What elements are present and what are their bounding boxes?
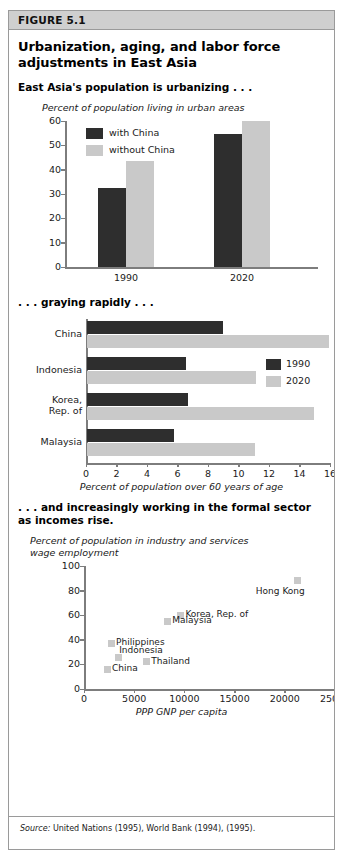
chart3-point-label: Malaysia xyxy=(172,615,211,625)
chart3-x-tickmark xyxy=(335,690,336,693)
chart2-x-tickmark xyxy=(177,464,179,467)
chart2-category-label: Indonesia xyxy=(20,364,82,375)
chart2-x-tick-label: 12 xyxy=(257,468,281,479)
chart1-legend-label: with China xyxy=(109,127,159,138)
chart1-category-label: 2020 xyxy=(212,272,272,283)
chart-aging: 0246810121416ChinaIndonesiaKorea,Rep. of… xyxy=(18,315,325,491)
chart1-y-tickmark xyxy=(61,121,65,123)
chart2-x-tick-label: 10 xyxy=(227,468,251,479)
source-text: United Nations (1995), World Bank (1994)… xyxy=(50,824,255,833)
chart3-data-point xyxy=(143,658,150,665)
chart2-x-tickmark xyxy=(86,464,88,467)
chart3-x-tick-label: 15000 xyxy=(215,693,255,704)
chart3-data-point xyxy=(294,577,301,584)
chart3-y-tick-label: 80 xyxy=(48,585,80,596)
chart3-y-tick-label: 60 xyxy=(48,609,80,620)
chart1-x-axis xyxy=(65,267,318,269)
chart1-bar xyxy=(98,188,126,267)
chart2-category-label: Korea,Rep. of xyxy=(20,394,82,416)
chart2-bar xyxy=(87,407,314,420)
chart1-y-tick-label: 10 xyxy=(36,237,61,248)
chart-formal-sector: 0204060801000500010000150002000025000Hon… xyxy=(18,561,325,713)
chart-urbanization: 010203040506019902020with Chinawithout C… xyxy=(18,116,325,284)
chart2-legend-swatch xyxy=(266,376,281,387)
chart1-y-tick-label: 60 xyxy=(36,115,61,126)
chart3-axis-note-line1: Percent of population in industry and se… xyxy=(30,535,325,547)
chart2-x-tick-label: 0 xyxy=(74,468,98,479)
chart2-x-tick-label: 14 xyxy=(288,468,312,479)
chart2-x-tickmark xyxy=(269,464,271,467)
chart2-bar xyxy=(87,393,188,406)
source-divider xyxy=(9,816,334,817)
chart1-y-tickmark xyxy=(61,267,65,269)
chart2-x-axis-title: Percent of population over 60 years of a… xyxy=(18,481,335,492)
chart2-legend-swatch xyxy=(266,359,281,370)
source-note: Source: United Nations (1995), World Ban… xyxy=(20,824,255,833)
chart2-x-tickmark xyxy=(330,464,332,467)
section-heading-formal-line2: as incomes rise. xyxy=(18,514,325,527)
chart1-y-tick-label: 0 xyxy=(36,261,61,272)
chart2-bar xyxy=(87,371,256,384)
chart2-x-tick-label: 16 xyxy=(318,468,335,479)
chart3-data-point xyxy=(104,666,111,673)
chart1-y-tick-label: 40 xyxy=(36,164,61,175)
chart1-bar xyxy=(126,161,154,267)
section-heading-formal-sector: . . . and increasingly working in the fo… xyxy=(18,501,325,527)
chart3-x-axis-title: PPP GNP per capita xyxy=(18,706,335,717)
chart3-y-tick-label: 40 xyxy=(48,634,80,645)
chart2-x-tickmark xyxy=(116,464,118,467)
chart3-y-tickmark xyxy=(80,590,84,592)
chart1-legend-swatch xyxy=(86,145,103,156)
chart3-x-tick-label: 25000 xyxy=(315,693,335,704)
chart3-x-axis xyxy=(84,689,335,691)
chart3-x-tick-label: 20000 xyxy=(265,693,305,704)
figure-body: Urbanization, aging, and labor force adj… xyxy=(9,39,334,713)
chart1-y-tick-label: 50 xyxy=(36,139,61,150)
chart2-bar xyxy=(87,443,255,456)
chart2-legend-label: 2020 xyxy=(286,375,310,386)
chart3-y-tick-label: 100 xyxy=(48,560,80,571)
section-heading-urbanization: East Asia's population is urbanizing . .… xyxy=(18,81,325,94)
chart3-data-point xyxy=(164,618,171,625)
chart3-data-point xyxy=(108,640,115,647)
chart2-bar xyxy=(87,357,186,370)
chart1-legend-swatch xyxy=(86,128,103,139)
section-heading-aging: . . . graying rapidly . . . xyxy=(18,296,325,309)
chart1-y-tick-label: 20 xyxy=(36,212,61,223)
chart1-y-tickmark xyxy=(61,194,65,196)
chart2-bar xyxy=(87,335,329,348)
chart2-legend-label: 1990 xyxy=(286,358,310,369)
chart3-y-tick-label: 20 xyxy=(48,658,80,669)
chart2-x-tick-label: 6 xyxy=(166,468,190,479)
chart2-x-tickmark xyxy=(299,464,301,467)
chart2-x-tick-label: 4 xyxy=(135,468,159,479)
figure-header: FIGURE 5.1 xyxy=(9,11,334,30)
chart2-x-tickmark xyxy=(147,464,149,467)
section-heading-formal-line1: . . . and increasingly working in the fo… xyxy=(18,501,325,514)
chart2-category-label: Malaysia xyxy=(20,436,82,447)
chart3-y-tickmark xyxy=(80,664,84,666)
chart1-category-label: 1990 xyxy=(96,272,156,283)
chart2-bar xyxy=(87,321,223,334)
chart3-point-label: Thailand xyxy=(151,656,190,666)
chart1-bar xyxy=(214,134,242,267)
figure-title-line1: Urbanization, aging, and labor force xyxy=(18,39,325,55)
chart1-y-tickmark xyxy=(61,242,65,244)
chart3-y-tickmark xyxy=(80,615,84,617)
chart1-y-tick-label: 30 xyxy=(36,188,61,199)
chart3-point-label: China xyxy=(112,663,138,673)
chart3-y-tickmark xyxy=(80,566,84,568)
chart3-x-tick-label: 10000 xyxy=(164,693,204,704)
chart3-point-label: Hong Kong xyxy=(256,586,305,596)
source-prefix: Source: xyxy=(20,824,50,833)
chart3-x-tick-label: 0 xyxy=(64,693,104,704)
chart3-axis-note-line2: wage employment xyxy=(30,547,325,559)
chart3-point-label: Indonesia xyxy=(119,645,163,655)
chart3-axis-note: Percent of population in industry and se… xyxy=(18,535,325,559)
chart3-x-tick-label: 5000 xyxy=(114,693,154,704)
chart1-y-tickmark xyxy=(61,145,65,147)
chart3-y-tickmark xyxy=(80,639,84,641)
chart1-y-tickmark xyxy=(61,218,65,220)
chart2-x-tick-label: 2 xyxy=(105,468,129,479)
chart1-bar xyxy=(242,121,270,267)
